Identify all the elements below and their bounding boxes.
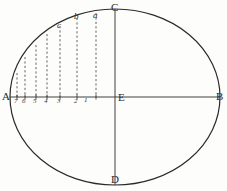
curve-point-label-c: c bbox=[57, 21, 61, 30]
vertex-label-A: A bbox=[2, 91, 10, 102]
tick-label-4: 4 bbox=[44, 98, 48, 105]
curve-point-label-b: b bbox=[74, 12, 79, 21]
tick-label-7: 7 bbox=[14, 98, 18, 105]
tick-label-1: 1 bbox=[84, 97, 88, 104]
tick-label-5: 5 bbox=[33, 98, 37, 105]
ellipse-figure: ABCDEabc7654321 bbox=[0, 0, 227, 191]
axis-lines bbox=[10, 9, 220, 185]
tick-label-3: 3 bbox=[57, 98, 61, 105]
curve-point-label-a: a bbox=[93, 11, 98, 20]
vertex-label-D: D bbox=[111, 174, 119, 185]
tick-label-6: 6 bbox=[22, 98, 26, 105]
figure-canvas bbox=[0, 0, 227, 191]
vertex-label-E: E bbox=[118, 92, 125, 103]
tick-label-2: 2 bbox=[74, 98, 78, 105]
vertex-label-B: B bbox=[216, 91, 223, 102]
vertex-label-C: C bbox=[111, 2, 118, 13]
